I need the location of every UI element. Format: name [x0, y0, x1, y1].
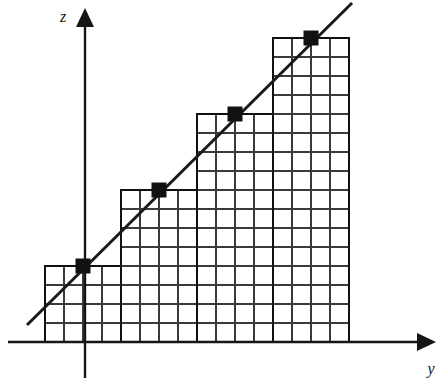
figure-container: z y [0, 0, 448, 386]
horizontal-axis: y [8, 333, 436, 378]
right-arrow-icon [417, 333, 436, 351]
data-point-marker [152, 183, 167, 198]
up-arrow-icon [76, 8, 94, 27]
data-point-marker [76, 259, 91, 274]
vertical-axis-label: z [59, 8, 67, 25]
data-point-marker [228, 107, 243, 122]
linear-reference-line [27, 3, 352, 325]
step-function-diagram: z y [0, 0, 448, 386]
horizontal-axis-label: y [425, 360, 435, 378]
data-point-marker [304, 31, 319, 46]
